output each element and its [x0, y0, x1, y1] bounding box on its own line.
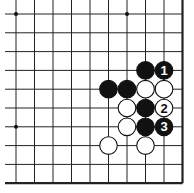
white-stone — [118, 118, 136, 136]
go-board: 123 — [0, 0, 194, 193]
black-stone — [137, 99, 155, 117]
star-point — [14, 125, 18, 129]
move-number-label: 3 — [160, 119, 167, 134]
white-stone — [155, 80, 173, 98]
black-stone — [118, 80, 136, 98]
move-number-label: 2 — [160, 101, 167, 116]
black-stone — [137, 62, 155, 80]
white-stone — [118, 99, 136, 117]
black-stone — [100, 80, 118, 98]
go-board-diagram: 123 — [0, 0, 194, 193]
white-stone — [100, 137, 118, 155]
white-stone — [137, 80, 155, 98]
white-stone — [137, 137, 155, 155]
star-point — [14, 12, 18, 16]
black-stone — [137, 118, 155, 136]
star-point — [125, 12, 129, 16]
move-number-label: 1 — [160, 63, 167, 78]
